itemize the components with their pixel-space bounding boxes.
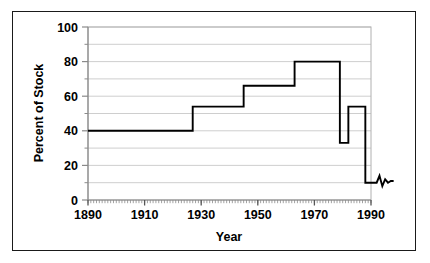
y-tick-label-40: 40 xyxy=(64,124,78,138)
x-tick-label-1990: 1990 xyxy=(357,208,385,222)
x-tick-label-1950: 1950 xyxy=(244,208,272,222)
x-minor-tick-marks xyxy=(88,200,371,203)
y-tick-label-60: 60 xyxy=(64,90,78,104)
x-axis-title: Year xyxy=(216,230,243,244)
x-tick-label-1910: 1910 xyxy=(131,208,159,222)
y-tick-label-0: 0 xyxy=(71,194,78,208)
y-tick-labels-group: 020406080100 xyxy=(57,21,78,208)
x-tick-label-1930: 1930 xyxy=(187,208,215,222)
y-tick-label-100: 100 xyxy=(57,21,78,35)
x-tick-label-1970: 1970 xyxy=(300,208,328,222)
y-tick-label-80: 80 xyxy=(64,55,78,69)
y-tick-marks xyxy=(82,27,88,200)
y-axis-title: Percent of Stock xyxy=(32,64,46,163)
x-tick-label-1890: 1890 xyxy=(74,208,102,222)
x-tick-labels-group: 189019101930195019701990 xyxy=(74,208,385,222)
figure-container: 020406080100 189019101930195019701990 Ye… xyxy=(0,0,430,263)
chart-canvas: 020406080100 189019101930195019701990 Ye… xyxy=(0,0,430,263)
y-tick-label-20: 20 xyxy=(64,159,78,173)
